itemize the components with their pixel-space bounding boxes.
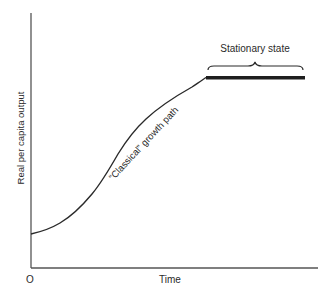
origin-label: O [26, 274, 34, 285]
diagram-canvas: Stationary state “Classical” growth path… [0, 0, 324, 302]
stationary-state-bar [206, 76, 305, 80]
growth-path-curve [31, 77, 207, 234]
y-axis-label: Real per capita output [15, 91, 26, 184]
stationary-state-label: Stationary state [220, 43, 290, 54]
stationary-state-brace [208, 62, 303, 70]
x-axis-label: Time [159, 274, 181, 285]
growth-diagram: Stationary state “Classical” growth path… [0, 0, 324, 302]
growth-path-label: “Classical” growth path [106, 104, 180, 182]
